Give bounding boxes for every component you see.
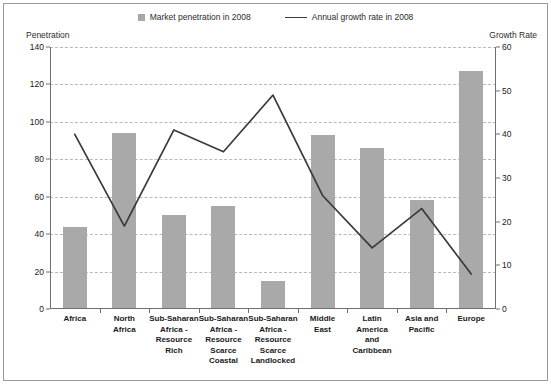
category-label: Sub-SaharanAfrica -ResourceScarceLandloc… [248, 314, 298, 367]
right-axis-tick-label: 20 [502, 217, 536, 227]
left-axis-caption: Penetration [26, 30, 69, 40]
category-label: Sub-SaharanAfrica -Resource Rich [149, 314, 199, 356]
right-axis-tickmark [496, 90, 500, 91]
left-axis-line [50, 47, 51, 309]
category-label: Europe [446, 314, 496, 325]
right-axis-tickmark [496, 178, 500, 179]
right-axis-tickmark [496, 265, 500, 266]
legend-bar-swatch-icon [138, 14, 145, 21]
legend-item-growth-rate: Annual growth rate in 2008 [285, 12, 414, 22]
line-series [50, 47, 496, 309]
legend-item-market-penetration: Market penetration in 2008 [138, 12, 251, 22]
left-axis-tick-label: 0 [10, 304, 44, 314]
x-axis-line [50, 308, 496, 309]
x-axis-tickmark [397, 309, 398, 313]
right-axis-tickmark [496, 221, 500, 222]
right-axis-tick-label: 40 [502, 129, 536, 139]
left-axis-tick-label: 100 [10, 117, 44, 127]
x-axis-tickmark [248, 309, 249, 313]
x-axis-tickmark [149, 309, 150, 313]
legend-line-swatch-icon [285, 17, 307, 18]
plot-area: 140120100806040200 6050403020100 [50, 47, 496, 309]
legend-line-label: Annual growth rate in 2008 [312, 12, 414, 22]
category-label: Latin Americaand Caribbean [347, 314, 397, 356]
growth-rate-line [75, 95, 471, 274]
right-axis-tickmark [496, 309, 500, 310]
left-axis-tick-label: 40 [10, 229, 44, 239]
category-label: NorthAfrica [100, 314, 150, 335]
x-axis-tickmark [199, 309, 200, 313]
x-axis-tickmark [347, 309, 348, 313]
x-axis-tickmark [298, 309, 299, 313]
right-axis-tick-label: 50 [502, 86, 536, 96]
left-axis-tick-label: 80 [10, 154, 44, 164]
category-label: MiddleEast [298, 314, 348, 335]
right-axis-tickmark [496, 47, 500, 48]
category-label: Asia andPacific [397, 314, 447, 335]
right-axis-tick-label: 10 [502, 260, 536, 270]
left-axis-tick-label: 120 [10, 79, 44, 89]
right-axis-caption: Growth Rate [489, 30, 537, 40]
right-axis-line [495, 47, 496, 309]
category-label: Sub-SaharanAfrica -ResourceScarceCoastal [199, 314, 249, 367]
right-axis-tick-label: 30 [502, 173, 536, 183]
right-axis-tick-label: 60 [502, 42, 536, 52]
x-axis-tickmark [100, 309, 101, 313]
category-labels: AfricaNorthAfricaSub-SaharanAfrica -Reso… [50, 314, 496, 380]
chart-legend: Market penetration in 2008 Annual growth… [4, 12, 547, 22]
left-axis-tick-label: 20 [10, 267, 44, 277]
left-axis-tick-label: 140 [10, 42, 44, 52]
legend-bar-label: Market penetration in 2008 [150, 12, 251, 22]
right-axis-tick-label: 0 [502, 304, 536, 314]
category-label: Africa [50, 314, 100, 325]
left-axis-tick-label: 60 [10, 192, 44, 202]
x-axis-tickmark [446, 309, 447, 313]
right-axis-tickmark [496, 134, 500, 135]
chart-frame: Market penetration in 2008 Annual growth… [3, 3, 548, 381]
